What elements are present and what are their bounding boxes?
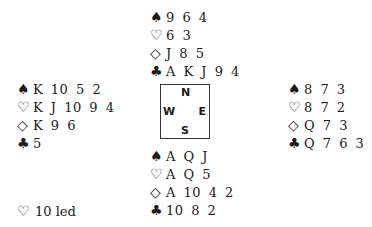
compass-west: W	[163, 105, 175, 118]
west-hand: ♠K 10 5 2 ♡K J 10 9 4 ◇K 9 6 ♣5	[17, 80, 115, 152]
south-clubs: ♣10 8 2	[150, 201, 234, 219]
south-diamonds: ◇A 10 4 2	[150, 183, 234, 201]
club-icon: ♣	[17, 134, 33, 152]
lead-text: 10 led	[35, 204, 76, 219]
compass-south: S	[181, 124, 189, 137]
compass-box: N W E S	[160, 84, 210, 139]
north-hearts: ♡6 3	[150, 26, 240, 44]
north-diamonds: ◇J 8 5	[150, 44, 240, 62]
north-clubs: ♣A K J 9 4	[150, 62, 240, 80]
north-spades: ♠9 6 4	[150, 8, 240, 26]
club-icon: ♣	[150, 201, 166, 219]
heart-icon: ♡	[288, 98, 304, 116]
spade-icon: ♠	[150, 147, 166, 165]
diamond-icon: ◇	[288, 116, 304, 134]
south-spades: ♠A Q J	[150, 147, 234, 165]
diamond-icon: ◇	[150, 183, 166, 201]
east-diamonds: ◇Q 7 3	[288, 116, 364, 134]
heart-icon: ♡	[17, 98, 33, 116]
compass-north: N	[181, 86, 190, 99]
west-hearts: ♡K J 10 9 4	[17, 98, 115, 116]
east-clubs: ♣Q 7 6 3	[288, 134, 364, 152]
south-hand: ♠A Q J ♡A Q 5 ◇A 10 4 2 ♣10 8 2	[150, 147, 234, 219]
opening-lead: ♡10 led	[17, 203, 76, 219]
club-icon: ♣	[288, 134, 304, 152]
west-clubs: ♣5	[17, 134, 115, 152]
heart-icon: ♡	[17, 203, 35, 219]
club-icon: ♣	[150, 62, 166, 80]
spade-icon: ♠	[288, 80, 304, 98]
heart-icon: ♡	[150, 26, 166, 44]
compass-east: E	[198, 105, 206, 118]
spade-icon: ♠	[150, 8, 166, 26]
east-spades: ♠8 7 3	[288, 80, 364, 98]
heart-icon: ♡	[150, 165, 166, 183]
south-hearts: ♡A Q 5	[150, 165, 234, 183]
diamond-icon: ◇	[150, 44, 166, 62]
west-spades: ♠K 10 5 2	[17, 80, 115, 98]
east-hand: ♠8 7 3 ♡8 7 2 ◇Q 7 3 ♣Q 7 6 3	[288, 80, 364, 152]
spade-icon: ♠	[17, 80, 33, 98]
west-diamonds: ◇K 9 6	[17, 116, 115, 134]
diamond-icon: ◇	[17, 116, 33, 134]
east-hearts: ♡8 7 2	[288, 98, 364, 116]
north-hand: ♠9 6 4 ♡6 3 ◇J 8 5 ♣A K J 9 4	[150, 8, 240, 80]
